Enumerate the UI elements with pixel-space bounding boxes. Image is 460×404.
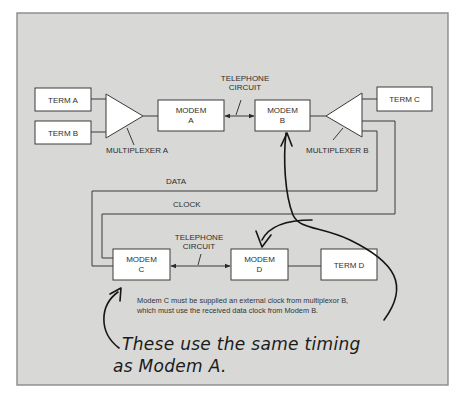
- telephone-circuit-bottom-line1: TELEPHONE: [175, 233, 223, 242]
- clock-label: CLOCK: [173, 200, 201, 209]
- modem-b-box: MODEM B: [255, 100, 310, 131]
- modem-b-label-line2: B: [280, 116, 285, 125]
- modem-c-label-line2: C: [139, 265, 145, 274]
- term-c-label: TERM C: [389, 95, 420, 104]
- multiplexer-b-label: MULTIPLEXER B: [306, 146, 369, 155]
- telephone-circuit-top-line2: CIRCUIT: [229, 83, 262, 92]
- term-d-box: TERM D: [321, 249, 377, 280]
- telephone-circuit-top-line1: TELEPHONE: [221, 74, 269, 83]
- note-line2: which must use the received data clock f…: [136, 306, 318, 315]
- handwritten-note-line1: These use the same timing: [122, 334, 361, 354]
- term-b-label: TERM B: [48, 129, 78, 138]
- telephone-circuit-bottom-line2: CIRCUIT: [183, 242, 216, 251]
- modem-a-label-line2: A: [188, 116, 194, 125]
- modem-b-label-line1: MODEM: [267, 106, 298, 115]
- modem-d-label-line2: D: [257, 265, 263, 274]
- modem-c-box: MODEM C: [113, 249, 170, 280]
- modem-c-label-line1: MODEM: [126, 255, 157, 264]
- data-label: DATA: [166, 177, 187, 186]
- modem-d-label-line1: MODEM: [244, 255, 275, 264]
- term-b-box: TERM B: [35, 121, 91, 144]
- handwritten-note-line2: as Modem A.: [113, 356, 227, 376]
- note-line1: Modem C must be supplied an external clo…: [137, 296, 348, 305]
- term-d-label: TERM D: [334, 261, 365, 270]
- multiplexer-a-label: MULTIPLEXER A: [106, 146, 169, 155]
- modem-a-label-line1: MODEM: [176, 106, 207, 115]
- network-timing-diagram: TERM A TERM B MULTIPLEXER A MODEM A TELE…: [0, 0, 460, 404]
- term-c-box: TERM C: [377, 87, 432, 111]
- diagram-panel: [17, 13, 448, 385]
- modem-a-box: MODEM A: [158, 100, 224, 131]
- term-a-label: TERM A: [48, 96, 78, 105]
- modem-d-box: MODEM D: [231, 249, 288, 280]
- term-a-box: TERM A: [35, 88, 91, 111]
